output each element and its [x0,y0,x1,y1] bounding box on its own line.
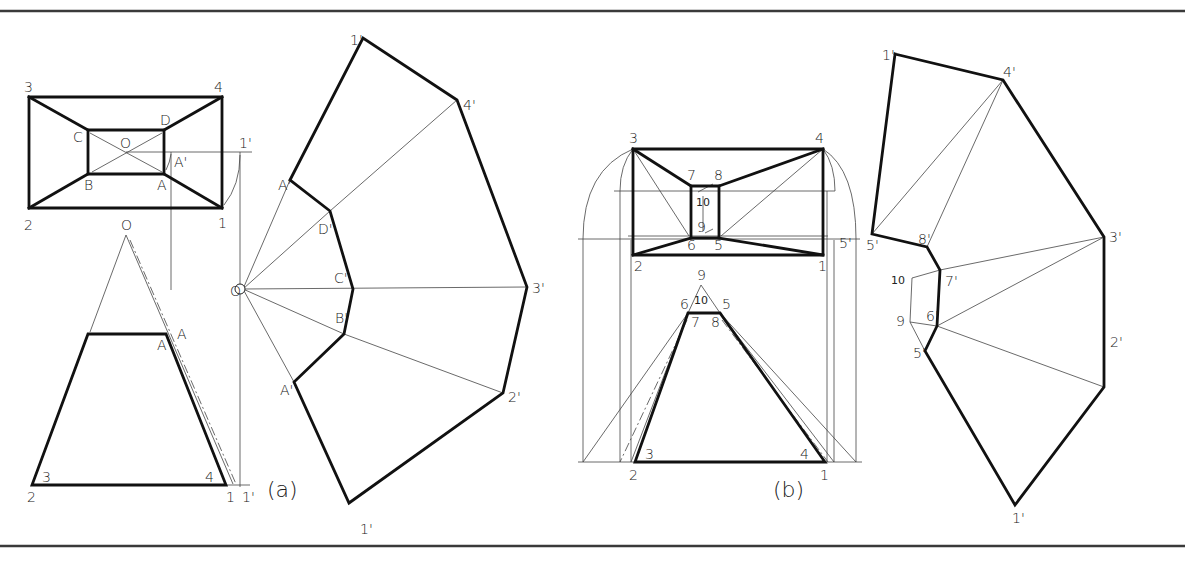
point-label: 1 [226,489,235,505]
point-label: 4 [214,79,223,95]
edge-line [633,149,691,186]
edge-line [29,174,88,208]
point-label: 10 [891,274,905,287]
point-label: 1' [1012,510,1025,526]
construction-arc [224,155,240,205]
point-label: 5 [714,237,723,253]
point-label: 2' [508,389,521,405]
point-label: 1 [818,258,827,274]
fold-line [872,80,1003,234]
fold-line [912,270,940,278]
part-a-development: O1'4'A'D'C'3'B'A'2'1' [230,32,545,537]
point-label: A' [174,154,187,170]
point-label: 5' [839,235,852,251]
point-label: 4 [205,469,214,485]
point-label: 2' [1110,334,1123,350]
point-label: 2 [27,489,36,505]
construction-line [90,235,126,332]
true-length-line [130,240,236,484]
point-label: 3' [1109,229,1122,245]
point-label: 8' [918,231,931,247]
point-label: 9 [697,219,706,235]
point-label: 4' [1003,64,1016,80]
fold-line [940,237,1104,270]
construction-line [583,313,688,462]
part-b-development: 1'4'8'5'3'107'6'95'2'1' [866,47,1123,526]
point-label: 7 [691,314,700,330]
construction-line [705,229,713,233]
point-label: B' [335,310,348,326]
point-label: 4 [815,130,824,146]
edge-line [633,238,691,255]
point-label: 6' [926,308,939,324]
point-label: 1' [882,47,895,63]
fold-line [927,80,1003,247]
fold-line [243,287,527,289]
point-label: 1' [350,32,363,48]
point-label: 7' [945,273,958,289]
point-label: A' [280,382,293,398]
part-a: 3421CDOBAA'1' OAA34211' O1'4'A'D'C'3'B'A… [24,32,545,537]
point-label: 4' [463,97,476,113]
point-label: 7 [687,167,696,183]
part-a-top-view: 3421CDOBAA'1' [24,79,252,487]
fold-line [910,278,912,322]
point-label: 3 [24,79,33,95]
point-label: B [84,177,93,193]
construction-line [126,235,233,484]
point-label: 6 [680,296,689,312]
point-label: O [120,135,131,151]
edge-line [164,174,222,208]
construction-line [633,149,689,236]
fold-line [330,100,457,211]
part-a-front-view: OAA34211' [27,217,255,505]
point-label: 8 [711,314,720,330]
point-label: 3 [42,469,51,485]
fold-line [344,334,503,393]
point-label: 4 [800,446,809,462]
point-label: 9 [697,267,706,283]
point-label: C' [334,270,348,286]
point-label: 10 [694,294,708,307]
point-label: A [177,326,187,342]
point-label: A [157,337,167,353]
point-label: 1' [239,135,252,151]
point-label: D [160,112,171,128]
edge-line [719,238,823,255]
point-label: 9 [896,313,905,329]
fold-line [937,237,1104,326]
part-b-front-view: 91065783421 [578,267,862,483]
construction-arc [823,149,856,239]
fold-line [937,326,1104,387]
edge-line [719,149,823,186]
point-label: 5' [913,345,926,361]
point-label: 1 [218,215,227,231]
point-label: C [73,129,83,145]
point-label: 2 [24,217,33,233]
construction-arc [166,154,171,170]
fold-line [243,211,330,289]
construction-line [720,313,856,462]
point-label: D' [318,221,333,237]
development-outline [290,38,527,503]
fold-line [243,180,290,289]
part-b-top-view: 347810965215' [578,130,860,462]
point-label: 5' [866,237,879,253]
frustum-elevation [32,334,226,485]
construction-arc [823,149,835,191]
edge-line [164,97,222,130]
caption-b: (b) [773,477,804,502]
part-b: 347810965215' 91065783421 1'4'8'5'3'107'… [578,47,1123,526]
edge-line [29,97,88,130]
point-label: 3' [532,280,545,296]
caption-a: (a) [267,477,298,502]
fold-line [243,289,344,334]
point-label: 3 [645,446,654,462]
development-outline [872,54,1104,505]
point-label: 5 [722,296,731,312]
frustum-elevation [635,313,825,462]
figure-canvas: 3421CDOBAA'1' OAA34211' O1'4'A'D'C'3'B'A… [0,0,1185,561]
point-label: 1 [820,467,829,483]
point-label: 2 [629,467,638,483]
point-label: 6 [687,237,696,253]
